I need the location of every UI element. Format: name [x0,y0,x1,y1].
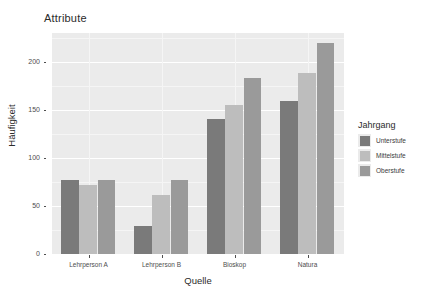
x-tick-label: Natura [298,261,318,268]
y-tick-mark [44,158,47,159]
legend-color-swatch [360,166,370,176]
legend-item-label: Mittelstufe [376,152,406,159]
x-tick-mark [89,255,90,258]
x-tick-mark [162,255,163,258]
bar [134,226,152,254]
y-tick-mark [44,254,47,255]
legend-title: Jahrgang [358,120,424,130]
y-tick-label: 200 [28,58,40,65]
legend-color-swatch [360,136,370,146]
bar [317,43,335,254]
plot-panel [52,33,344,254]
legend: Jahrgang UnterstufeMittelstufeOberstufe [358,120,424,179]
x-tick-label: Bioskop [223,261,246,268]
bar [207,119,225,254]
legend-items: UnterstufeMittelstufeOberstufe [358,134,424,177]
y-tick-mark [44,110,47,111]
y-tick-mark [44,206,47,207]
bar [171,180,189,254]
legend-item-label: Unterstufe [376,137,406,144]
y-tick-label: 100 [28,154,40,161]
bars-layer [52,33,344,254]
chart-container: Attribute 050100150200 Lehrperson ALehrp… [0,0,426,303]
legend-key [358,134,371,147]
x-tick-mark [308,255,309,258]
legend-item[interactable]: Unterstufe [358,134,424,147]
bar [280,101,298,254]
y-tick-label: 50 [32,202,40,209]
y-axis-title: Häufigkeit [6,96,17,156]
x-tick-label: Lehrperson A [69,261,108,268]
y-tick-label: 150 [28,106,40,113]
legend-key [358,149,371,162]
x-tick-label: Lehrperson B [142,261,181,268]
legend-color-swatch [360,151,370,161]
bar [298,73,316,254]
x-tick-mark [235,255,236,258]
chart-title: Attribute [44,12,87,24]
bar [225,105,243,254]
y-tick-label: 0 [36,250,40,257]
y-axis: 050100150200 [24,33,46,254]
y-tick-mark [44,62,47,63]
x-axis-title: Quelle [52,275,344,286]
bar [98,180,116,254]
bar [152,195,170,254]
legend-item[interactable]: Oberstufe [358,164,424,177]
legend-item-label: Oberstufe [376,167,405,174]
legend-item[interactable]: Mittelstufe [358,149,424,162]
bar [79,185,97,254]
bar [61,180,79,254]
legend-key [358,164,371,177]
bar [244,78,262,254]
